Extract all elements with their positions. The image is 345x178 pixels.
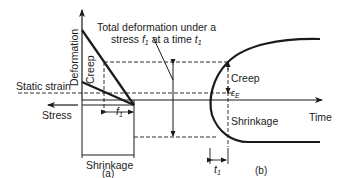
total-deformation-arrow — [153, 37, 173, 136]
panel-b-arrows — [210, 62, 228, 164]
shrinkage-label-b: Shrinkage — [231, 116, 278, 127]
elastic-strain-label: εE — [231, 88, 240, 101]
deformation-axis-label: Deformation — [69, 29, 80, 86]
total-deformation-annotation-line2: stress f1 at a time t1 — [111, 34, 202, 48]
time-axis-label: Time — [309, 112, 332, 123]
t1-label: t1 — [214, 164, 221, 178]
panel-a-frame — [82, 100, 134, 158]
caption-a: (a) — [102, 168, 114, 178]
creep-label-b: Creep — [231, 73, 260, 84]
stress-axis-label: Stress — [42, 110, 72, 121]
total-deformation-annotation-line1: Total deformation under a — [97, 22, 216, 33]
creep-label-a: Creep — [85, 55, 96, 84]
static-strain-label: Static strain — [16, 81, 71, 92]
f1-label: f1 — [116, 106, 123, 120]
caption-b: (b) — [255, 165, 267, 176]
